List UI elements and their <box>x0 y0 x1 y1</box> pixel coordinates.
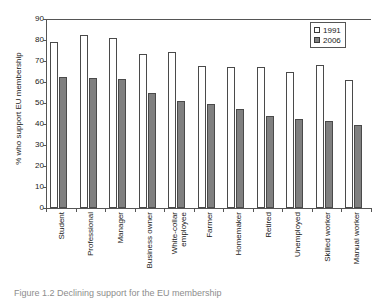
y-axis-tick-label: 80 <box>0 36 44 44</box>
x-axis-tick-mark <box>371 208 372 212</box>
bar-1991 <box>345 80 353 208</box>
bar-1991 <box>168 52 176 208</box>
x-axis-category-label: Professional <box>86 212 99 290</box>
x-axis-category-label: Business owner <box>145 212 158 290</box>
y-axis-tick-label: 90 <box>0 15 44 23</box>
y-axis-tick-label: 40 <box>0 120 44 128</box>
x-axis-category-label: Manager <box>116 212 129 290</box>
bar-1991 <box>198 66 206 208</box>
bar-2006 <box>59 77 67 208</box>
bar-1991 <box>316 65 324 208</box>
legend-swatch-1991 <box>314 27 320 33</box>
bar-2006 <box>207 104 215 208</box>
bar-2006 <box>325 121 333 208</box>
figure-caption: Figure 1.2 Declining support for the EU … <box>14 288 222 298</box>
x-axis-category-label: Student <box>57 212 70 290</box>
bar-group <box>76 19 106 208</box>
bar-group <box>46 19 76 208</box>
x-axis-category-label: Farmer <box>205 212 218 290</box>
bar-2006 <box>89 78 97 208</box>
y-axis-tick-label: 30 <box>0 141 44 149</box>
y-axis-tick-label: 50 <box>0 99 44 107</box>
x-axis-category-label: Unemployed <box>293 212 306 290</box>
bar-group <box>194 19 224 208</box>
bar-1991 <box>50 42 58 208</box>
bar-group <box>341 19 371 208</box>
y-axis-tick-label: 10 <box>0 183 44 191</box>
bar-group <box>135 19 165 208</box>
legend-item-1991: 1991 <box>314 25 341 35</box>
y-axis-tick-label: 60 <box>0 78 44 86</box>
x-axis-category-label: Homemaker <box>234 212 247 290</box>
x-axis-line <box>46 208 371 209</box>
legend-label-2006: 2006 <box>323 36 341 45</box>
bar-1991 <box>257 67 265 208</box>
x-axis-category-label: White-collaremployee <box>170 212 183 290</box>
x-axis-category-label: Skilled worker <box>323 212 336 290</box>
legend: 1991 2006 <box>310 22 346 48</box>
bar-group <box>223 19 253 208</box>
bar-1991 <box>227 67 235 208</box>
x-axis-category-label: Manual worker <box>352 212 365 290</box>
bar-1991 <box>139 54 147 208</box>
bar-2006 <box>236 109 244 208</box>
y-axis-tick-label: 0 <box>0 204 44 212</box>
bar-2006 <box>266 116 274 208</box>
bar-2006 <box>148 93 156 209</box>
bar-group <box>282 19 312 208</box>
legend-swatch-2006 <box>314 37 320 43</box>
legend-label-1991: 1991 <box>323 26 341 35</box>
bar-2006 <box>177 101 185 208</box>
bar-2006 <box>118 79 126 208</box>
bar-1991 <box>109 38 117 208</box>
bar-group <box>253 19 283 208</box>
legend-item-2006: 2006 <box>314 35 341 45</box>
x-axis-category-label: Retired <box>264 212 277 290</box>
bar-2006 <box>295 119 303 208</box>
bar-1991 <box>80 35 88 208</box>
bar-2006 <box>354 125 362 208</box>
y-axis-tick-label: 20 <box>0 162 44 170</box>
bar-group <box>164 19 194 208</box>
x-axis-category-labels: StudentProfessionalManagerBusiness owner… <box>46 212 371 290</box>
bar-group <box>105 19 135 208</box>
y-axis-tick-label: 70 <box>0 57 44 65</box>
bar-1991 <box>286 72 294 209</box>
